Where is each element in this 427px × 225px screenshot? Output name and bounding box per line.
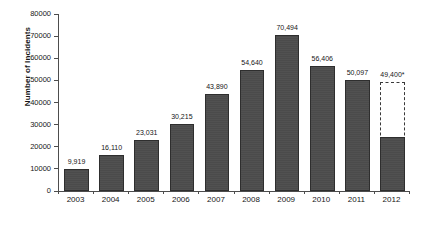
x-axis-ticks: 2003200420052006200720082009201020112012 (58, 194, 410, 210)
y-axis-tick-label: 40000 (30, 98, 51, 108)
bar-group[interactable]: 50,097 (345, 14, 370, 191)
x-axis-tick-mark (304, 191, 305, 194)
x-axis-tick-label: 2003 (58, 194, 93, 206)
y-axis-tick-label: 10000 (30, 164, 51, 174)
bar-value-label: 56,406 (312, 55, 333, 63)
bar-chart: Number of Incidents 01000020000300004000… (0, 0, 427, 225)
bar-group[interactable]: 49,400* (380, 14, 405, 191)
y-axis-tick-mark (54, 58, 58, 59)
bar[interactable] (134, 140, 159, 191)
bar-group[interactable]: 56,406 (310, 14, 335, 191)
x-axis-tick-label: 2010 (304, 194, 339, 206)
x-axis-tick-mark (58, 191, 59, 194)
y-axis-title: Number of Incidents (23, 2, 32, 132)
y-axis-tick-mark (54, 80, 58, 81)
bar[interactable] (64, 169, 89, 191)
x-axis-tick-label: 2008 (234, 194, 269, 206)
x-axis-tick-mark (128, 191, 129, 194)
bar-value-label: 49,400* (380, 71, 404, 79)
y-axis-tick: 40000 (2, 98, 58, 108)
y-axis-tick-label: 60000 (30, 53, 51, 63)
x-axis-tick-mark (409, 191, 410, 194)
y-axis-tick-mark (54, 124, 58, 125)
bar[interactable] (380, 137, 405, 191)
bar-value-label: 9,919 (68, 158, 86, 166)
bar[interactable] (205, 94, 230, 191)
y-axis-tick-label: 70000 (30, 31, 51, 41)
x-axis-tick-mark (93, 191, 94, 194)
x-axis-tick-mark (374, 191, 375, 194)
bar-group[interactable]: 16,110 (99, 14, 124, 191)
bar-group[interactable]: 30,215 (170, 14, 195, 191)
y-axis-tick: 20000 (2, 142, 58, 152)
bar[interactable] (170, 124, 195, 191)
y-axis-tick-label: 50000 (30, 75, 51, 85)
bar-value-label: 16,110 (101, 144, 122, 152)
x-axis-tick-label: 2007 (198, 194, 233, 206)
bar[interactable] (99, 155, 124, 191)
bar[interactable] (275, 35, 300, 191)
y-axis-tick: 50000 (2, 75, 58, 85)
x-axis-tick-label: 2005 (128, 194, 163, 206)
bar-value-label: 54,640 (241, 59, 262, 67)
y-axis-tick-mark (54, 14, 58, 15)
bar-group[interactable]: 43,890 (205, 14, 230, 191)
bar-value-label: 23,031 (136, 129, 157, 137)
x-axis-tick-mark (198, 191, 199, 194)
y-axis-tick: 70000 (2, 31, 58, 41)
x-axis-tick-mark (269, 191, 270, 194)
bar-value-label: 30,215 (171, 113, 192, 121)
x-axis-tick-label: 2009 (269, 194, 304, 206)
y-axis-tick: 10000 (2, 164, 58, 174)
bar-group[interactable]: 9,919 (64, 14, 89, 191)
bar[interactable] (310, 66, 335, 191)
bar-group[interactable]: 54,640 (240, 14, 265, 191)
plot-area: 0100002000030000400005000060000700008000… (58, 14, 410, 192)
x-axis-tick-mark (339, 191, 340, 194)
bar-value-label: 70,494 (276, 24, 297, 32)
x-axis-tick-label: 2012 (374, 194, 409, 206)
y-axis-tick: 60000 (2, 53, 58, 63)
y-axis-tick-label: 80000 (30, 9, 51, 19)
x-axis-tick-mark (234, 191, 235, 194)
x-axis-tick-label: 2011 (339, 194, 374, 206)
x-axis-tick-label: 2004 (93, 194, 128, 206)
bar-group[interactable]: 23,031 (134, 14, 159, 191)
y-axis-tick-label: 0 (47, 186, 51, 196)
bar-series: 9,91916,11023,03130,21543,89054,64070,49… (59, 14, 410, 191)
y-axis-tick-label: 30000 (30, 120, 51, 130)
y-axis-tick-mark (54, 36, 58, 37)
y-axis-tick-mark (54, 168, 58, 169)
y-axis-tick: 80000 (2, 9, 58, 19)
y-axis-tick-mark (54, 146, 58, 147)
y-axis-tick-mark (54, 102, 58, 103)
bar-group[interactable]: 70,494 (275, 14, 300, 191)
bar-value-label: 43,890 (206, 83, 227, 91)
x-axis-tick-mark (163, 191, 164, 194)
y-axis-tick: 30000 (2, 120, 58, 130)
y-axis-tick: 0 (2, 186, 58, 196)
y-axis-tick-label: 20000 (30, 142, 51, 152)
bar[interactable] (240, 70, 265, 191)
bar[interactable] (345, 80, 370, 191)
x-axis-tick-label: 2006 (163, 194, 198, 206)
bar-value-label: 50,097 (347, 69, 368, 77)
